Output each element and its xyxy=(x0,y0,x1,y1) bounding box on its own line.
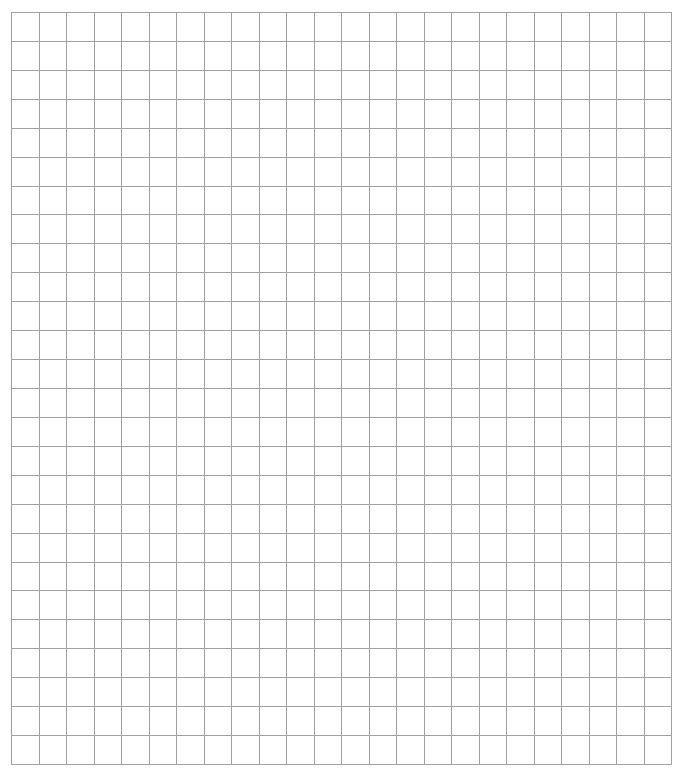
grid-lines xyxy=(11,12,672,765)
grid-paper xyxy=(11,12,672,765)
